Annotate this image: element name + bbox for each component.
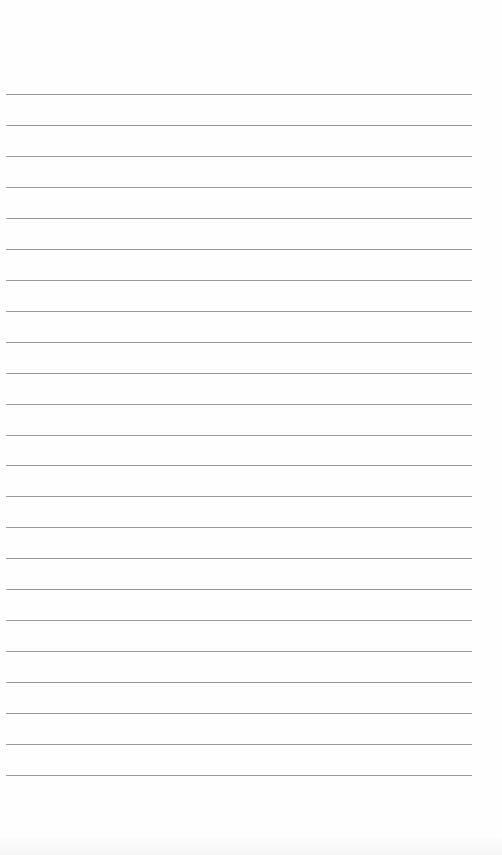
- ruled-line: [6, 156, 472, 157]
- ruled-line: [6, 496, 472, 497]
- ruled-line: [6, 651, 472, 652]
- ruled-line: [6, 775, 472, 776]
- ruled-line: [6, 713, 472, 714]
- ruled-line: [6, 435, 472, 436]
- ruled-line: [6, 589, 472, 590]
- ruled-line: [6, 373, 472, 374]
- lined-paper-page: [0, 0, 502, 855]
- bottom-edge-shadow: [0, 838, 502, 855]
- ruled-line: [6, 125, 472, 126]
- ruled-line: [6, 620, 472, 621]
- ruled-line: [6, 218, 472, 219]
- ruled-line: [6, 187, 472, 188]
- ruled-line: [6, 527, 472, 528]
- ruled-line: [6, 311, 472, 312]
- ruled-line: [6, 465, 472, 466]
- ruled-line: [6, 94, 472, 95]
- ruled-line: [6, 404, 472, 405]
- ruled-line: [6, 682, 472, 683]
- ruled-line: [6, 280, 472, 281]
- ruled-line: [6, 342, 472, 343]
- ruled-line: [6, 249, 472, 250]
- ruled-line: [6, 744, 472, 745]
- ruled-line: [6, 558, 472, 559]
